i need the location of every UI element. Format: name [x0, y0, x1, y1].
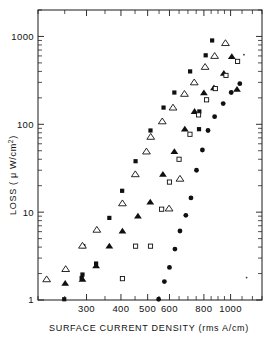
marker-filled-circle — [156, 297, 161, 302]
marker-filled-circle — [162, 279, 167, 284]
marker-filled-square — [172, 90, 176, 94]
x-tick-label: 300 — [78, 303, 95, 314]
marker-filled-square — [107, 216, 111, 220]
figure-panel: 3004005006008001000 1000100101 SURFACE C… — [0, 0, 272, 340]
marker-filled-circle — [178, 229, 183, 234]
y-axis-title-suffix: ) — [8, 135, 18, 139]
y-tick-label: 1 — [28, 294, 34, 305]
marker-filled-circle — [189, 196, 194, 201]
marker-filled-circle — [173, 247, 178, 252]
marker-filled-square — [188, 69, 192, 73]
marker-filled-square — [161, 105, 165, 109]
marker-filled-circle — [194, 168, 199, 173]
y-tick-label: 1000 — [11, 31, 34, 42]
marker-filled-circle — [183, 213, 188, 218]
y-tick-label: 100 — [17, 119, 34, 130]
marker-open-square — [160, 207, 164, 211]
marker-filled-square — [133, 159, 137, 163]
x-axis-title-text: SURFACE CURRENT DENSITY (rms A/cm) — [49, 323, 249, 333]
marker-open-square — [120, 277, 124, 281]
marker-filled-circle — [229, 90, 234, 95]
marker-filled-circle — [200, 148, 205, 153]
marker-filled-square — [204, 53, 208, 57]
marker-filled-circle — [221, 101, 226, 106]
marker-filled-square — [120, 189, 124, 193]
marker-filled-square — [197, 127, 201, 131]
x-tick-label: 1000 — [219, 303, 242, 314]
x-axis-title: SURFACE CURRENT DENSITY (rms A/cm) — [49, 323, 249, 333]
marker-open-square — [196, 113, 200, 117]
x-tick-label: 600 — [161, 303, 178, 314]
marker-filled-circle — [206, 128, 211, 133]
loss-vs-surface-current-density-scatter-chart: 3004005006008001000 1000100101 SURFACE C… — [0, 0, 272, 340]
x-tick-label: 800 — [195, 303, 212, 314]
y-axis-title-main: LOSS ( μ W/cm — [8, 143, 18, 215]
stray-mark — [243, 54, 245, 56]
marker-open-square — [177, 157, 181, 161]
marker-filled-circle — [237, 81, 242, 86]
marker-filled-square — [148, 128, 152, 132]
marker-filled-square — [210, 38, 214, 42]
marker-open-square — [148, 244, 152, 248]
marker-filled-circle — [167, 265, 172, 270]
marker-open-square — [235, 59, 239, 63]
y-axis-title: LOSS ( μ W/cm2) — [7, 135, 18, 215]
marker-open-square — [188, 132, 192, 136]
stray-mark — [246, 277, 248, 279]
y-tick-label: 10 — [23, 207, 34, 218]
marker-open-square — [133, 244, 137, 248]
marker-open-square — [213, 86, 217, 90]
marker-filled-circle — [212, 114, 217, 119]
marker-filled-square — [62, 297, 66, 301]
marker-open-square — [204, 98, 208, 102]
y-axis-title-text: LOSS ( μ W/cm2) — [7, 135, 18, 215]
marker-open-square — [224, 73, 228, 77]
marker-open-square — [167, 180, 171, 184]
x-tick-label: 400 — [112, 303, 129, 314]
x-tick-label: 500 — [139, 303, 156, 314]
